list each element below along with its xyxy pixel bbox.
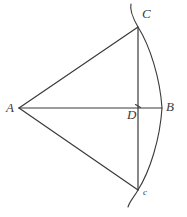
vertex-label-D: D — [127, 108, 136, 121]
arc-CBc — [128, 4, 162, 207]
segment-Ac — [19, 108, 138, 190]
vertex-label-c-lower: c — [143, 188, 147, 197]
geometry-figure: A C c D B — [0, 0, 187, 217]
vertex-label-A: A — [6, 101, 14, 114]
segment-AC — [19, 27, 138, 108]
vertex-label-B: B — [166, 100, 174, 113]
figure-canvas — [0, 0, 187, 217]
vertex-label-C: C — [142, 7, 151, 20]
